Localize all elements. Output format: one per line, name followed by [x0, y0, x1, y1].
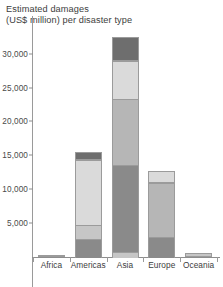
bar-segment[interactable] [112, 61, 139, 100]
plot-area: 5,00010,00015,00020,00025,00030,000 [33, 30, 217, 257]
x-axis-label-africa: Africa [41, 260, 63, 270]
y-axis-tick-mark [29, 121, 33, 122]
chart-title-line-2: (US$ million) per disaster type [6, 15, 218, 26]
x-axis-tick-mark [217, 257, 218, 262]
y-axis-tick-mark [29, 87, 33, 88]
x-axis-tick-mark [180, 257, 181, 262]
bar-segment[interactable] [112, 99, 139, 165]
y-axis-tick-mark [29, 155, 33, 156]
x-axis-label-oceania: Oceania [183, 260, 214, 270]
y-axis-tick-mark [29, 223, 33, 224]
x-axis-tick-mark [107, 257, 108, 262]
bar-segment[interactable] [148, 171, 175, 184]
bar-segment[interactable] [75, 152, 102, 160]
bar-segment[interactable] [112, 165, 139, 253]
bar-segment[interactable] [148, 183, 175, 238]
bar-oceania[interactable] [185, 253, 212, 257]
bar-americas[interactable] [75, 149, 102, 257]
x-axis-tick-mark [143, 257, 144, 262]
x-axis-label-europe: Europe [148, 260, 175, 270]
x-axis-tick-mark [33, 257, 34, 262]
bar-asia[interactable] [112, 33, 139, 257]
bar-segment[interactable] [75, 160, 102, 226]
chart-title: Estimated damages (US$ million) per disa… [6, 4, 218, 27]
bar-segment[interactable] [75, 239, 102, 258]
y-axis-tick-mark [29, 53, 33, 54]
bar-segment[interactable] [148, 237, 175, 258]
x-axis-label-asia: Asia [117, 260, 133, 270]
bar-segment[interactable] [112, 252, 139, 258]
y-axis-tick-mark [29, 189, 33, 190]
bar-segment[interactable] [38, 255, 65, 257]
x-axis-label-americas: Americas [71, 260, 106, 270]
bar-segment[interactable] [185, 253, 212, 257]
bar-europe[interactable] [148, 169, 175, 257]
bar-segment[interactable] [75, 225, 102, 241]
bar-africa[interactable] [38, 255, 65, 257]
bar-segment[interactable] [112, 37, 139, 61]
chart-title-line-1: Estimated damages [6, 4, 218, 15]
